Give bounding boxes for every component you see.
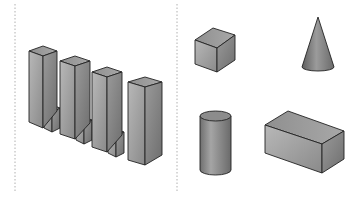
bar-2 bbox=[60, 56, 90, 139]
cube-shape bbox=[195, 28, 235, 72]
bar-4 bbox=[128, 77, 162, 165]
bar-blocks-group bbox=[29, 46, 162, 165]
cylinder-shape bbox=[200, 111, 231, 175]
rectangular-prism-shape bbox=[265, 111, 344, 173]
cone-shape bbox=[302, 17, 334, 71]
geometric-solids-illustration bbox=[0, 0, 363, 198]
bar-3 bbox=[92, 67, 122, 152]
bar-1 bbox=[29, 46, 57, 128]
